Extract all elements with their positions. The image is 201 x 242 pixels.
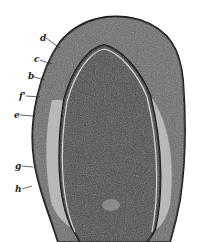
anatomical-figure <box>0 0 201 242</box>
label-e: e <box>14 111 20 120</box>
label-d: d <box>40 34 46 43</box>
label-b: b <box>28 72 34 81</box>
nucleus <box>102 199 120 211</box>
label-c: c <box>34 55 39 64</box>
label-g: g <box>15 162 21 171</box>
label-f-prime: f' <box>19 92 26 101</box>
label-h: h <box>15 185 22 194</box>
